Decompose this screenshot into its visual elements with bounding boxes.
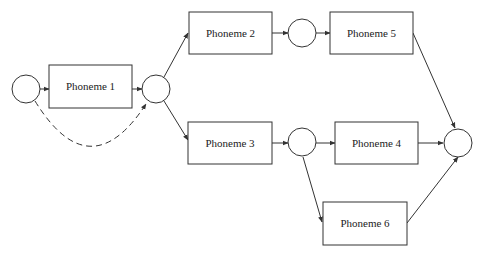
edge-p5-s4 [413,33,455,128]
phoneme-box-3: Phoneme 3 [188,122,272,164]
phoneme-label-2: Phoneme 2 [206,27,255,39]
phoneme-label-6: Phoneme 6 [340,217,390,229]
state-node-end [444,129,472,157]
diagram-svg: Phoneme 1 Phoneme 2 Phoneme 5 Phoneme 3 … [0,0,480,255]
phoneme-box-6: Phoneme 6 [323,202,407,245]
edge-s1-p3 [164,101,188,140]
edge-s1-p2 [164,33,188,77]
phoneme-box-5: Phoneme 5 [330,12,413,54]
edge-s3-p6 [303,157,322,222]
phoneme-label-3: Phoneme 3 [205,137,255,149]
state-node-3 [288,128,316,156]
phoneme-label-4: Phoneme 4 [352,137,402,149]
phoneme-box-4: Phoneme 4 [335,122,418,164]
phoneme-lattice-diagram: Phoneme 1 Phoneme 2 Phoneme 5 Phoneme 3 … [0,0,480,255]
state-node-start [12,75,40,103]
phoneme-box-1: Phoneme 1 [49,65,132,108]
phoneme-label-1: Phoneme 1 [66,80,115,92]
edge-p6-s4 [407,157,458,223]
state-node-1 [142,75,170,103]
phoneme-box-2: Phoneme 2 [189,12,272,54]
state-node-2 [288,19,316,47]
phoneme-label-5: Phoneme 5 [347,27,397,39]
